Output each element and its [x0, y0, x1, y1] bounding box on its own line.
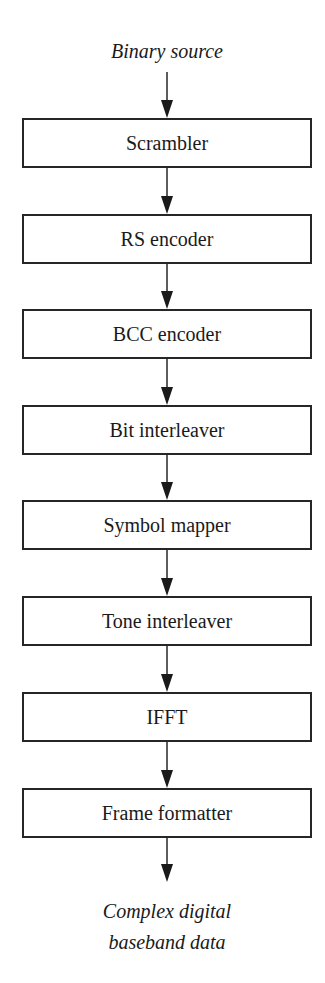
- arrow-down-icon: [159, 742, 175, 788]
- block-label: Bit interleaver: [110, 419, 225, 442]
- block-label: RS encoder: [121, 228, 214, 251]
- input-label-binary-source: Binary source: [0, 36, 325, 67]
- block-scrambler: Scrambler: [22, 118, 312, 168]
- block-ifft: IFFT: [22, 692, 312, 742]
- block-rs-encoder: RS encoder: [22, 214, 312, 264]
- block-bcc-encoder: BCC encoder: [22, 309, 312, 359]
- block-label: Scrambler: [126, 132, 208, 155]
- arrow-down-icon: [159, 838, 175, 882]
- output-label-line-2: baseband data: [0, 927, 325, 958]
- output-label-complex-digital-baseband-data: Complex digital baseband data: [0, 896, 325, 958]
- block-label: IFFT: [146, 706, 187, 729]
- block-label: Frame formatter: [102, 802, 233, 825]
- block-symbol-mapper: Symbol mapper: [22, 500, 312, 550]
- arrow-down-icon: [159, 264, 175, 309]
- arrow-down-icon: [159, 72, 175, 118]
- arrow-down-icon: [159, 168, 175, 214]
- arrow-down-icon: [159, 359, 175, 405]
- arrow-down-icon: [159, 455, 175, 500]
- block-frame-formatter: Frame formatter: [22, 788, 312, 838]
- arrow-down-icon: [159, 550, 175, 596]
- block-label: Symbol mapper: [103, 514, 230, 537]
- block-label: Tone interleaver: [102, 610, 232, 633]
- output-label-line-1: Complex digital: [0, 896, 325, 927]
- block-label: BCC encoder: [113, 323, 221, 346]
- block-tone-interleaver: Tone interleaver: [22, 596, 312, 646]
- block-bit-interleaver: Bit interleaver: [22, 405, 312, 455]
- arrow-down-icon: [159, 646, 175, 692]
